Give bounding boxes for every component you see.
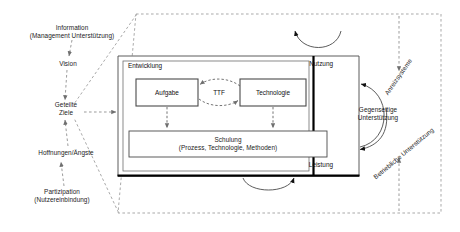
label-partizipation-line1: Partizipation xyxy=(34,188,89,196)
label-nutzung: Nutzung xyxy=(309,60,333,67)
label-aufgabe: Aufgabe xyxy=(155,89,179,97)
label-ttf: TTF xyxy=(213,89,225,97)
bottom-feedback-arc xyxy=(243,178,294,190)
label-entwicklung: Entwicklung xyxy=(128,62,162,69)
label-hoffnungen-line1: Hoffnungen/Ängste xyxy=(38,149,93,157)
label-information: Information (Management Unterstützung) xyxy=(30,24,114,40)
label-schulung: Schulung (Prozess, Technologie, Methoden… xyxy=(179,136,277,152)
label-ziele-line1: Geteilte xyxy=(55,101,77,109)
label-leistung: Leistung xyxy=(309,161,333,168)
label-ziele-line2: Ziele xyxy=(55,109,77,117)
label-gegenseitige-unterstuetzung: Gegenseitige Unterstützung xyxy=(358,106,398,122)
label-geteilte-ziele: Geteilte Ziele xyxy=(55,101,77,117)
label-information-line2: (Management Unterstützung) xyxy=(30,32,114,40)
label-information-line1: Information xyxy=(30,24,114,32)
partizipation-to-hoffnungen-arrow xyxy=(61,162,64,186)
label-vision: Vision xyxy=(59,60,77,68)
system-frame xyxy=(118,56,359,176)
label-hoffnungen-aengste: Hoffnungen/Ängste xyxy=(38,149,93,157)
label-schulung-line2: (Prozess, Technologie, Methoden) xyxy=(179,144,277,152)
hoffnungen-to-ziele-arrow xyxy=(65,120,68,146)
label-technologie: Technologie xyxy=(256,89,290,97)
label-gegenseitige-line2: Unterstützung xyxy=(358,114,398,122)
label-partizipation-line2: (Nutzereinbindung) xyxy=(34,196,89,204)
diagram-canvas: Information (Management Unterstützung) V… xyxy=(0,0,460,232)
information-to-vision-arrow xyxy=(69,40,72,56)
label-schulung-line1: Schulung xyxy=(179,136,277,144)
vision-to-ziele-arrow xyxy=(65,70,67,100)
top-feedback-arc xyxy=(295,31,341,48)
label-vision-line1: Vision xyxy=(59,60,77,68)
label-gegenseitige-line1: Gegenseitige xyxy=(358,106,398,114)
label-partizipation: Partizipation (Nutzereinbindung) xyxy=(34,188,89,204)
